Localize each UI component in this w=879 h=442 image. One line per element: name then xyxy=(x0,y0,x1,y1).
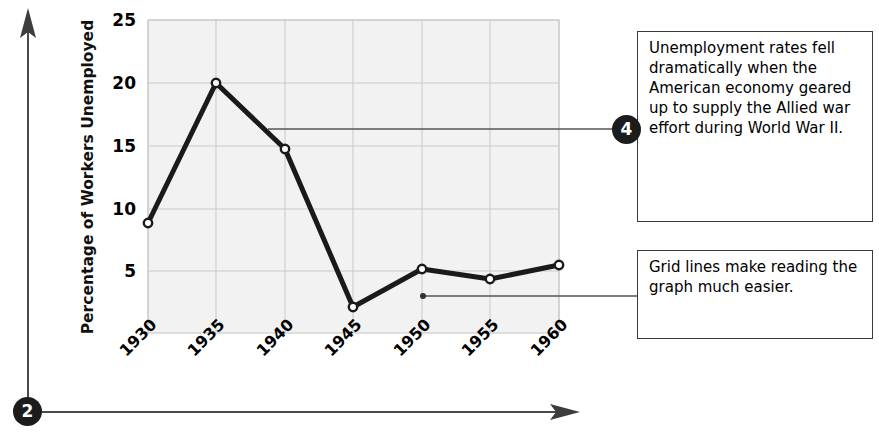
data-point xyxy=(212,79,220,87)
data-point xyxy=(144,219,152,227)
y-axis-arrow xyxy=(20,8,36,412)
data-point xyxy=(281,145,289,153)
y-tick-label-10: 10 xyxy=(100,201,136,218)
data-point xyxy=(418,265,426,273)
callout-box-unemployment-note: Unemployment rates fell dramatically whe… xyxy=(637,31,873,222)
leader-anchor-dot xyxy=(420,293,426,299)
y-tick-label-15: 15 xyxy=(100,138,136,155)
y-tick-label-20: 20 xyxy=(100,75,136,92)
badge-2-axis-marker: 2 xyxy=(13,397,42,426)
data-point xyxy=(349,303,357,311)
x-axis-arrow xyxy=(28,404,580,420)
data-point xyxy=(486,275,494,283)
y-axis-title: Percentage of Workers Unemployed xyxy=(79,17,97,337)
badge-4-callout-marker: 4 xyxy=(612,115,641,144)
y-tick-label-25: 25 xyxy=(100,12,136,29)
data-point xyxy=(555,261,563,269)
y-tick-label-5: 5 xyxy=(100,263,136,280)
unemployment-chart-figure: Percentage of Workers Unemployed 25 20 1… xyxy=(0,0,879,442)
callout-box-gridlines-note: Grid lines make reading the graph much e… xyxy=(637,250,873,339)
